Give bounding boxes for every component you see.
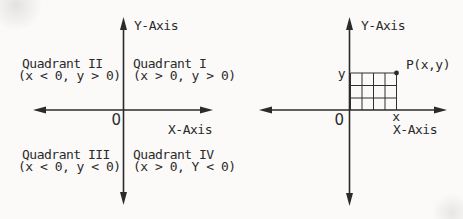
left-y-axis-up-arrow-icon <box>120 17 127 30</box>
scanned-figure-page: Y-Axis X-Axis 0 Quadrant I (x > 0, y > 0… <box>0 0 463 219</box>
right-coordinate-diagram: Y-Axis X-Axis 0 y x P(x,y) <box>259 17 450 206</box>
unit-grid <box>351 73 397 110</box>
left-x-axis-left-arrow-icon <box>33 107 46 114</box>
quadrant-1-condition: (x > 0, y > 0) <box>133 68 236 83</box>
point-p-dot <box>394 71 399 76</box>
left-coordinate-diagram: Y-Axis X-Axis 0 Quadrant I (x > 0, y > 0… <box>18 17 236 205</box>
x-coordinate-label: x <box>392 109 400 124</box>
point-p-label: P(x,y) <box>406 57 450 72</box>
right-y-axis-label: Y-Axis <box>361 18 405 33</box>
left-y-axis-label: Y-Axis <box>134 18 178 33</box>
right-x-axis-left-arrow-icon <box>259 107 272 114</box>
coordinate-diagrams-figure: Y-Axis X-Axis 0 Quadrant I (x > 0, y > 0… <box>0 0 463 219</box>
left-y-axis-down-arrow-icon <box>120 192 127 205</box>
left-x-axis-label: X-Axis <box>168 122 212 137</box>
right-x-axis-right-arrow-icon <box>434 107 447 114</box>
quadrant-4-condition: (x > 0, Y < 0) <box>133 159 236 174</box>
quadrant-3-condition: (x < 0, y < 0) <box>18 159 121 174</box>
right-origin-label: 0 <box>334 111 344 129</box>
quadrant-2-condition: (x < 0, y > 0) <box>18 68 121 83</box>
y-coordinate-label: y <box>338 66 346 81</box>
right-y-axis-up-arrow-icon <box>346 17 353 30</box>
right-y-axis-down-arrow-icon <box>346 193 353 206</box>
left-origin-label: 0 <box>111 111 121 129</box>
left-x-axis-right-arrow-icon <box>200 107 213 114</box>
